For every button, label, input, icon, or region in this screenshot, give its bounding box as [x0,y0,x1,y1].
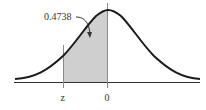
normal-distribution-figure: 0.4738 z 0 [0,0,206,110]
area-label: 0.4738 [44,11,72,22]
z-tick-label: z [61,92,66,103]
zero-tick-label: 0 [105,92,110,103]
